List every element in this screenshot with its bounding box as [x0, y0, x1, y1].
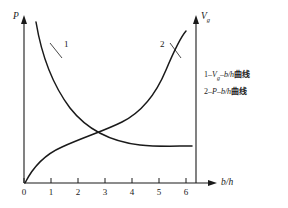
left-axis-arrow: [21, 15, 27, 24]
x-tick-label-2: 2: [72, 188, 84, 197]
legend-item-2-suffix: 曲线: [231, 87, 247, 96]
x-tick-label-6: 6: [180, 188, 192, 197]
legend-item-1: 1–Vg–b/h曲线: [204, 68, 250, 85]
x-axis-arrow: [208, 180, 217, 186]
right-axis-label-subscript: g: [207, 16, 210, 23]
legend: 1–Vg–b/h曲线 2–P–b/h曲线: [204, 68, 250, 101]
curve-1-callout-label: 1: [64, 40, 69, 49]
x-tick-label-3: 3: [99, 188, 111, 197]
curve-2-path: [25, 31, 186, 183]
right-axis-arrow: [193, 15, 199, 24]
legend-item-2: 2–P–b/h曲线: [204, 85, 250, 102]
right-axis-label: Vg: [201, 12, 210, 23]
x-tick-label-4: 4: [126, 188, 138, 197]
x-tick-label-5: 5: [153, 188, 165, 197]
curve-1-leader-line: [50, 43, 62, 58]
x-tick-label-1: 1: [45, 188, 57, 197]
x-axis-label: b/h: [221, 178, 233, 188]
figure-container: P Vg b/h 0 1 2 3 4 5 6 1 2 1–Vg–b/h曲线 2–…: [0, 0, 288, 208]
curve-2-callout-label: 2: [160, 40, 165, 49]
curve-1-path: [36, 22, 192, 146]
x-tick-label-0: 0: [18, 188, 30, 197]
legend-item-1-xvariable: b/h: [224, 70, 234, 79]
legend-item-2-xvariable: b/h: [221, 87, 231, 96]
legend-item-1-suffix: 曲线: [234, 70, 250, 79]
plot-canvas: [0, 0, 288, 208]
left-axis-label: P: [13, 12, 19, 22]
x-axis-ticks: [24, 178, 186, 183]
